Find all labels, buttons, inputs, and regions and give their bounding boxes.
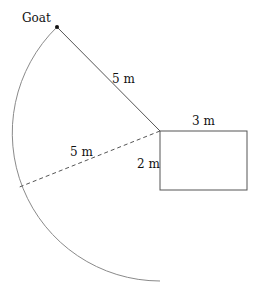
radius-length-label: 5 m (70, 145, 93, 159)
rope-length-label: 5 m (112, 72, 135, 86)
shed-width-label: 3 m (192, 114, 215, 128)
shed-rectangle (160, 131, 247, 190)
shed-height-label: 2 m (137, 157, 160, 171)
goat-label: Goat (22, 11, 51, 25)
rope-line (57, 27, 160, 131)
goat-diagram: Goat 5 m 5 m 3 m 2 m (0, 0, 259, 297)
goat-point (55, 25, 59, 29)
